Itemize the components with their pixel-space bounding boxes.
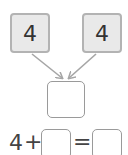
sum-answer-box[interactable] [47, 81, 85, 118]
right-arrow-icon [69, 54, 96, 78]
equation-plus-sign: + [24, 131, 42, 153]
result-answer-box[interactable] [92, 129, 122, 155]
equation-equals-sign: = [73, 131, 91, 153]
addend-answer-box[interactable] [41, 129, 71, 155]
left-arrow-icon [32, 54, 62, 78]
equation-left-operand: 4 [9, 132, 23, 154]
